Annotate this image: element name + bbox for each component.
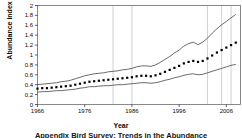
y-axis-tick-label: 1.2 (9, 42, 33, 48)
data-point-marker (169, 69, 171, 71)
x-axis-tick-label: 1966 (23, 108, 53, 114)
data-point-marker (235, 42, 237, 44)
x-axis-label: Year (0, 122, 242, 129)
data-point-marker (187, 61, 189, 63)
figure-caption: Appendix Bird Survey: Trends in the Abun… (0, 131, 242, 138)
data-point-marker (202, 60, 204, 62)
data-point-marker (88, 81, 90, 83)
y-axis-tick-label: 1 (9, 52, 33, 58)
y-axis-tick-label: 0.2 (9, 92, 33, 98)
data-point-marker (183, 62, 185, 64)
data-point-marker (93, 80, 95, 82)
y-axis-tick-label: 1.6 (9, 22, 33, 28)
y-axis-tick-label: 0 (9, 102, 33, 108)
data-point-marker (121, 77, 123, 79)
data-point-marker (74, 84, 76, 86)
data-point-marker (41, 87, 43, 89)
data-point-marker (98, 80, 100, 82)
data-point-marker (102, 79, 104, 81)
data-point-marker (178, 65, 180, 67)
x-axis-tick-label: 1996 (164, 108, 194, 114)
data-point-marker (192, 60, 194, 62)
data-point-marker (112, 78, 114, 80)
data-point-marker (131, 76, 133, 78)
x-axis-tick-label: 1976 (70, 108, 100, 114)
data-point-marker (159, 73, 161, 75)
x-axis-tick-label: 1986 (117, 108, 147, 114)
data-point-marker (51, 87, 53, 89)
data-point-marker (65, 85, 67, 87)
chart-plot-area (0, 0, 242, 138)
data-point-marker (197, 61, 199, 63)
data-point-marker (225, 46, 227, 48)
data-point-marker (79, 83, 81, 85)
data-point-marker (154, 74, 156, 76)
data-point-marker (216, 51, 218, 53)
chart-figure: Abundance index Year Appendix Bird Surve… (0, 0, 242, 138)
data-point-marker (173, 67, 175, 69)
y-axis-tick-label: 1.8 (9, 12, 33, 18)
y-axis-tick-label: 0.4 (9, 82, 33, 88)
data-point-marker (107, 79, 109, 81)
data-point-marker (69, 85, 71, 87)
y-axis-tick-label: 2 (9, 3, 33, 9)
data-point-marker (206, 57, 208, 59)
data-point-marker (136, 75, 138, 77)
y-axis-tick-label: 0.8 (9, 62, 33, 68)
confidence-band-line (38, 14, 236, 84)
data-point-marker (117, 78, 119, 80)
y-axis-tick-label: 1.4 (9, 32, 33, 38)
x-axis-tick-label: 2006 (211, 108, 241, 114)
data-point-marker (150, 75, 152, 77)
data-point-marker (164, 71, 166, 73)
data-point-marker (211, 54, 213, 56)
confidence-band-line (38, 64, 236, 92)
data-point-marker (126, 77, 128, 79)
data-point-marker (230, 44, 232, 46)
data-point-marker (84, 82, 86, 84)
data-point-marker (145, 75, 147, 77)
data-point-marker (36, 88, 38, 90)
data-point-marker (60, 86, 62, 88)
data-point-marker (221, 49, 223, 51)
data-point-marker (140, 75, 142, 77)
data-point-marker (55, 86, 57, 88)
y-axis-tick-label: 0.6 (9, 72, 33, 78)
data-point-marker (46, 87, 48, 89)
